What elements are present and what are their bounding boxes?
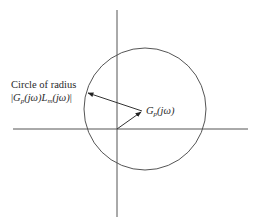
nyquist-diagram [0, 0, 262, 224]
circle-label: Circle of radius [11, 80, 76, 91]
radius-expression: |Gp(jω)Lm(jω)| [11, 93, 72, 104]
gp-point-label: Gp(jω) [146, 106, 174, 117]
radius-arrow [88, 93, 142, 111]
gp-vector-arrow [117, 112, 141, 129]
circle-label-line1: Circle of radius [11, 79, 76, 90]
uncertainty-circle [84, 48, 206, 170]
